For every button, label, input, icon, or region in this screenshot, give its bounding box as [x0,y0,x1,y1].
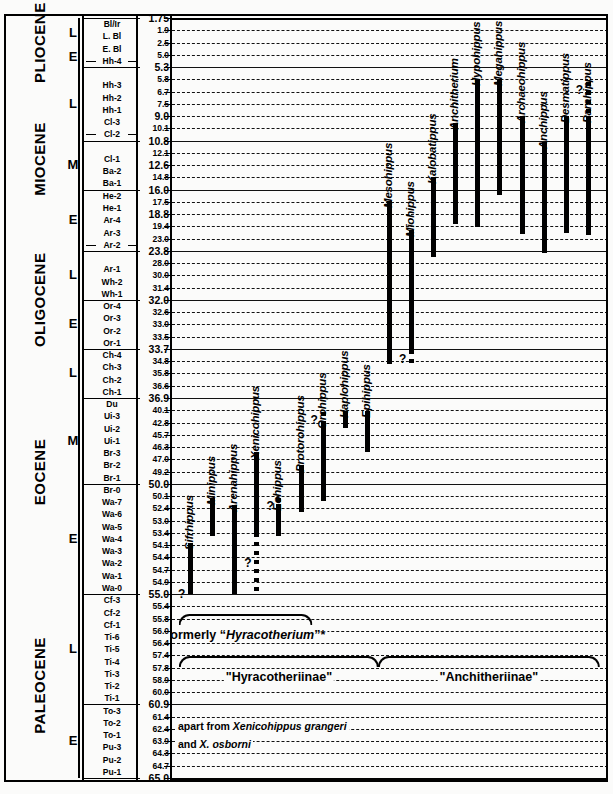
nalma-zone-label: Or-4 [84,301,140,311]
subepoch-rule [78,67,80,141]
epoch-column: PLIOCENEMIOCENEOLIGOCENEEOCENEPALEOCENE [8,16,70,780]
nalma-zone-label: Wa-4 [84,534,140,544]
nalma-zone-label: Pu-2 [84,755,140,765]
nalma-zone-label: Hh-3 [84,80,140,90]
range-bar-hypohippus [475,79,480,227]
nalma-zone-label: Ba-1 [84,178,140,188]
grid-line [172,778,606,780]
range-bar-arenahippus [232,505,237,594]
grid-line [172,594,606,595]
subepoch-rule [78,141,80,190]
range-chart-figure: PLIOCENEMIOCENEOLIGOCENEEOCENEPALEOCENE … [0,0,613,794]
genus-label-anchippus: Anchippus [537,91,549,149]
group-caption: formerly “Hyracotherium”* [170,628,327,642]
range-plot-area: ?SifrhippusMinippusArenahippus?Xenicohip… [170,16,606,780]
group-bracket [179,614,313,625]
nalma-zone-label: Wa-6 [84,509,140,519]
zone-tick [128,245,138,246]
nalma-zone-label: Br-3 [84,448,140,458]
range-bar-sifrhippus [188,543,193,594]
subepoch-rule [78,300,80,349]
range-bar-xenicohippus [254,452,259,533]
nalma-zone-label: Ar-4 [84,215,140,225]
grid-line [172,717,606,718]
nalma-zone-label: Pu-1 [84,767,140,777]
subepoch-column: LELMELELMELE [62,16,84,780]
zone-boundary-rule [84,141,140,142]
range-bar-desmatippus [564,116,569,233]
nalma-zone-label: Du [84,399,140,409]
grid-line [172,766,606,767]
grid-line [172,373,606,374]
subepoch-rule [78,398,80,484]
nalma-zone-label: Wa-1 [84,571,140,581]
nalma-zone-label: Hh-2 [84,93,140,103]
nalma-zone-label: Cf-2 [84,608,140,618]
nalma-zone-label: Ch-1 [84,387,140,397]
footnote-line-2: and X. osborni [176,738,253,750]
group-caption: "Anchitheriinae" [438,670,541,684]
age-value-column: 1.751.92.55.05.35.86.77.59.010.110.812.1… [138,16,170,780]
genus-label-protorohippus: Protorohippus [294,395,306,472]
uncertain-range-miohippus [409,350,414,367]
nalma-zone-label: Or-2 [84,326,140,336]
genus-label-orohippus: Orohippus [316,372,328,428]
nalma-zone-label: Wa-0 [84,583,140,593]
nalma-zone-label: Ch-2 [84,375,140,385]
grid-line [172,30,606,31]
zone-boundary-rule [84,349,140,350]
nalma-zone-label: Wa-3 [84,546,140,556]
grid-line [172,398,606,399]
zone-boundary-rule [84,18,140,19]
grid-line [172,67,606,68]
zone-tick [86,245,96,246]
grid-line [172,435,606,436]
group-bracket [378,656,600,667]
nalma-zone-label: Or-1 [84,338,140,348]
subepoch-rule [78,594,80,704]
grid-line [172,423,606,424]
group-bracket [179,656,379,667]
nalma-zone-label: Ti-2 [84,681,140,691]
subepoch-rule [78,190,80,251]
zone-boundary-rule [84,300,140,301]
zone-boundary-rule [84,704,140,705]
nalma-zone-label: Cl-1 [84,154,140,164]
subepoch-label: L [62,641,84,656]
nalma-zone-label: Cf-3 [84,595,140,605]
nalma-zone-label: Cl-3 [84,117,140,127]
subepoch-label: L [62,96,84,111]
group-caption: "Hyracotheriinae" [224,670,334,684]
epoch-label-oligocene: OLIGOCENE [8,251,70,349]
footnote-line-1: apart from Xenicohippus grangeri [176,720,349,732]
nalma-zone-label: Cf-1 [84,620,140,630]
grid-line [172,753,606,754]
genus-label-parahippus: Parahippus [581,62,593,123]
nalma-zone-label: To-2 [84,718,140,728]
genus-label-kalobatippus: Kalobatippus [426,114,438,184]
grid-line [172,410,606,411]
genus-label-hypohippus: Hypohippus [470,22,482,86]
genus-label-sifrhippus: Sifrhippus [183,495,195,550]
nalma-zone-label: Ui-3 [84,411,140,421]
subepoch-label: E [62,212,84,227]
grid-line [172,79,606,80]
genus-label-megahippus: Megahippus [492,21,504,86]
nalma-zone-label: Hh-1 [84,105,140,115]
nalma-zone-label: Ar-1 [84,264,140,274]
subepoch-rule [78,349,80,398]
subepoch-rule [78,48,80,67]
genus-label-haplohippus: Haplohippus [338,350,350,417]
nalma-zone-label: Ch-4 [84,350,140,360]
nalma-zone-label: Ti-6 [84,632,140,642]
subepoch-rule [78,18,80,48]
subepoch-label: E [62,733,84,748]
epoch-label-eocene: EOCENE [8,349,70,594]
subepoch-label: L [62,267,84,282]
nalma-zone-label: Wh-2 [84,277,140,287]
uncertainty-marker: ? [178,587,185,601]
grid-line [172,55,606,56]
genus-label-minippus: Minippus [205,456,217,505]
nalma-zone-label: Ti-5 [84,644,140,654]
range-bar-orohippus [321,422,326,501]
